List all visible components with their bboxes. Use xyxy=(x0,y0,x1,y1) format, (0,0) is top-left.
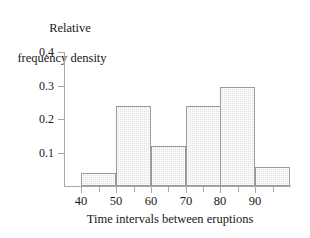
x-axis-minor-tick xyxy=(273,187,274,192)
x-axis-tick xyxy=(151,187,152,193)
histogram-bar xyxy=(81,173,116,186)
y-axis-title: Relative frequency density xyxy=(0,6,124,81)
y-axis-tick xyxy=(58,52,64,53)
x-axis-minor-tick xyxy=(99,187,100,192)
x-axis-tick xyxy=(220,187,221,193)
x-axis-title: Time intervals between eruptions xyxy=(40,212,300,227)
y-axis-tick xyxy=(58,119,64,120)
histogram-bar xyxy=(116,106,151,186)
histogram-bar xyxy=(151,146,186,186)
x-axis-minor-tick xyxy=(168,187,169,192)
y-axis-tick-label: 0.3 xyxy=(8,80,54,92)
y-axis-tick xyxy=(58,153,64,154)
y-axis-tick-label-wrap: 0.2 xyxy=(8,113,54,125)
x-axis-tick-label: 50 xyxy=(101,194,131,208)
histogram-figure: Relative frequency density 0.10.20.30.4 … xyxy=(0,0,310,238)
y-axis-tick-label: 0.2 xyxy=(8,113,54,125)
x-axis-minor-tick xyxy=(203,187,204,192)
y-axis-tick-label-wrap: 0.4 xyxy=(8,46,54,58)
x-axis-tick xyxy=(116,187,117,193)
x-axis-tick-label: 90 xyxy=(240,194,270,208)
x-axis-minor-tick xyxy=(134,187,135,192)
y-axis-title-line-1: Relative xyxy=(0,21,124,36)
x-axis-tick-label: 70 xyxy=(171,194,201,208)
y-axis-tick xyxy=(58,86,64,87)
y-axis-tick-label-wrap: 0.3 xyxy=(8,80,54,92)
x-axis-minor-tick xyxy=(238,187,239,192)
y-axis-tick-label: 0.1 xyxy=(8,147,54,159)
histogram-bar xyxy=(186,106,221,186)
x-axis-tick xyxy=(186,187,187,193)
x-axis-tick xyxy=(81,187,82,193)
x-axis-tick-label: 80 xyxy=(205,194,235,208)
x-axis-tick xyxy=(255,187,256,193)
x-axis-tick-label: 40 xyxy=(66,194,96,208)
x-axis-tick-label: 60 xyxy=(136,194,166,208)
y-axis-tick-label-wrap: 0.1 xyxy=(8,147,54,159)
y-axis-tick-label: 0.4 xyxy=(8,46,54,58)
histogram-bar xyxy=(255,167,290,186)
y-axis-line xyxy=(64,52,65,187)
histogram-bar xyxy=(220,87,255,186)
